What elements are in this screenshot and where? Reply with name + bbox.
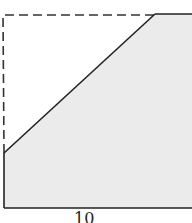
cut-square-diagram: [0, 0, 192, 223]
bottom-dimension-label: 10: [74, 211, 94, 223]
shaded-region: [4, 14, 192, 208]
